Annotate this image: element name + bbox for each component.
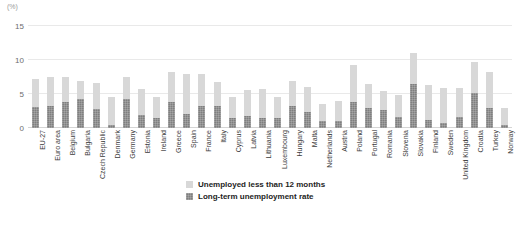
bar-group[interactable]: [244, 90, 251, 128]
bar-segment-short-term: [108, 97, 115, 125]
bar-segment-long-term: [395, 117, 402, 128]
bar-group[interactable]: [425, 85, 432, 128]
bar-segment-long-term: [198, 106, 205, 128]
legend-swatch-icon: [186, 181, 193, 188]
bar-segment-long-term: [93, 109, 100, 128]
bar-group[interactable]: [214, 82, 221, 128]
x-axis-label: Estonia: [144, 130, 152, 153]
bar-group[interactable]: [62, 77, 69, 128]
bar-group[interactable]: [77, 81, 84, 128]
bar-segment-short-term: [153, 97, 160, 119]
bar-segment-long-term: [214, 106, 221, 128]
bar-group[interactable]: [93, 83, 100, 128]
bar-segment-short-term: [440, 88, 447, 123]
x-axis-label: Italy: [220, 130, 228, 143]
bar-segment-short-term: [259, 89, 266, 118]
x-axis-label: United Kingdom: [462, 130, 470, 180]
y-tick-label: 10: [8, 56, 24, 65]
bar-group[interactable]: [319, 104, 326, 128]
bar-group[interactable]: [274, 97, 281, 128]
legend-item[interactable]: Long-term unemployment rate: [186, 192, 325, 201]
legend-label: Unemployed less than 12 months: [198, 180, 325, 189]
bar-segment-short-term: [77, 81, 84, 99]
bar-segment-short-term: [183, 74, 190, 114]
bar-segment-short-term: [456, 88, 463, 117]
bar-segment-short-term: [304, 87, 311, 112]
legend-item[interactable]: Unemployed less than 12 months: [186, 180, 325, 189]
bar-group[interactable]: [440, 88, 447, 128]
bar-group[interactable]: [471, 62, 478, 128]
bar-group[interactable]: [365, 84, 372, 128]
bar-segment-long-term: [153, 118, 160, 128]
bar-segment-short-term: [229, 97, 236, 118]
bar-segment-long-term: [138, 115, 145, 128]
bar-group[interactable]: [259, 89, 266, 128]
legend-label: Long-term unemployment rate: [198, 192, 314, 201]
bar-segment-long-term: [168, 102, 175, 128]
bar-segment-short-term: [168, 72, 175, 102]
bar-segment-long-term: [123, 99, 130, 128]
x-axis-label: Portugal: [371, 130, 379, 156]
y-tick-label: 5: [8, 90, 24, 99]
bar-group[interactable]: [304, 87, 311, 128]
bar-segment-short-term: [123, 77, 130, 99]
bar-group[interactable]: [198, 74, 205, 128]
bar-group[interactable]: [410, 53, 417, 128]
x-axis-label: Ireland: [160, 130, 168, 151]
bar-segment-short-term: [395, 95, 402, 117]
bar-segment-short-term: [62, 77, 69, 102]
legend-swatch-icon: [186, 193, 193, 200]
bar-segment-short-term: [486, 72, 493, 108]
bar-group[interactable]: [501, 108, 508, 128]
bar-group[interactable]: [108, 97, 115, 128]
bar-group[interactable]: [395, 95, 402, 128]
bar-segment-long-term: [410, 84, 417, 128]
x-axis-label: Sweden: [447, 130, 455, 155]
bar-segment-long-term: [365, 108, 372, 128]
bar-segment-short-term: [47, 77, 54, 106]
bar-group[interactable]: [138, 89, 145, 128]
bar-series-container: [28, 26, 512, 128]
bar-group[interactable]: [153, 97, 160, 128]
bar-segment-long-term: [304, 112, 311, 128]
bar-group[interactable]: [168, 72, 175, 128]
bar-group[interactable]: [456, 88, 463, 128]
bar-segment-short-term: [380, 91, 387, 109]
bar-group[interactable]: [123, 77, 130, 128]
bar-segment-long-term: [380, 110, 387, 128]
bar-segment-short-term: [32, 79, 39, 107]
bar-segment-long-term: [425, 120, 432, 128]
x-axis-label: Malta: [311, 130, 319, 147]
bar-segment-short-term: [365, 84, 372, 108]
bar-segment-long-term: [471, 93, 478, 128]
bar-group[interactable]: [47, 77, 54, 128]
bar-segment-long-term: [440, 123, 447, 128]
x-axis-label: France: [205, 130, 213, 152]
x-axis-label: Greece: [175, 130, 183, 153]
bar-segment-long-term: [244, 116, 251, 128]
bar-group[interactable]: [335, 101, 342, 128]
bar-group[interactable]: [486, 72, 493, 128]
bar-group[interactable]: [289, 81, 296, 128]
bar-group[interactable]: [350, 65, 357, 128]
bar-segment-short-term: [198, 74, 205, 105]
bar-segment-long-term: [47, 106, 54, 128]
bar-segment-long-term: [456, 117, 463, 128]
x-axis-label: Romania: [386, 130, 394, 158]
bar-segment-long-term: [289, 106, 296, 128]
bar-segment-short-term: [501, 108, 508, 126]
bar-segment-short-term: [93, 83, 100, 109]
bar-segment-long-term: [108, 125, 115, 128]
bar-segment-short-term: [214, 82, 221, 106]
x-axis-label: Euro area: [54, 130, 62, 161]
bar-group[interactable]: [183, 74, 190, 128]
bar-segment-long-term: [274, 118, 281, 128]
bar-segment-long-term: [319, 121, 326, 128]
bar-segment-long-term: [335, 121, 342, 128]
bar-group[interactable]: [32, 79, 39, 128]
bar-group[interactable]: [380, 91, 387, 128]
bar-segment-short-term: [289, 81, 296, 105]
y-tick-label: 0: [8, 124, 24, 133]
bar-group[interactable]: [229, 97, 236, 128]
bar-segment-long-term: [62, 102, 69, 128]
